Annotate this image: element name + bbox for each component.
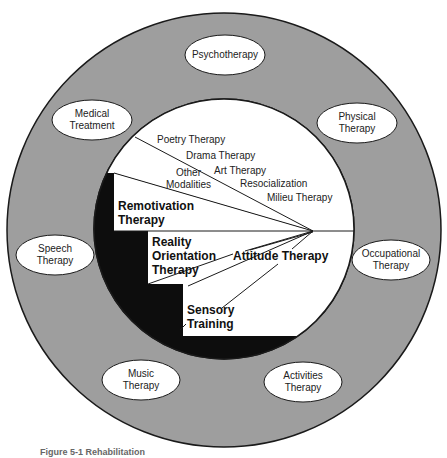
node-speech-therapy: Speech Therapy <box>16 235 94 275</box>
node-label: Speech Therapy <box>37 243 74 267</box>
node-occupational-therapy: Occupational Therapy <box>352 240 430 280</box>
node-label: Physical Therapy <box>338 111 375 135</box>
label-sensory-training: Sensory Training <box>187 303 234 331</box>
label-poetry-therapy: Poetry Therapy <box>157 134 225 146</box>
label-reality-orientation-therapy: Reality Orientation Therapy <box>152 235 216 277</box>
label-drama-therapy: Drama Therapy <box>186 150 255 162</box>
label-milieu-therapy: Milieu Therapy <box>267 192 332 204</box>
label-art-therapy: Art Therapy <box>214 165 266 177</box>
node-physical-therapy: Physical Therapy <box>317 103 397 143</box>
label-attitude-therapy: Attitude Therapy <box>233 249 328 263</box>
node-label: Psychotherapy <box>192 49 258 61</box>
label-other-modalities: Other Modalities <box>166 167 211 191</box>
node-label: Music Therapy <box>123 368 160 392</box>
label-remotivation-therapy: Remotivation Therapy <box>118 199 194 227</box>
node-label: Activities Therapy <box>283 370 322 394</box>
node-music-therapy: Music Therapy <box>102 360 180 400</box>
node-label: Occupational Therapy <box>362 248 420 272</box>
figure-caption: Figure 5-1 Rehabilitation <box>40 447 145 457</box>
node-psychotherapy: Psychotherapy <box>185 35 265 75</box>
node-activities-therapy: Activities Therapy <box>264 362 342 402</box>
node-medical-treatment: Medical Treatment <box>52 100 132 140</box>
label-resocialization: Resocialization <box>240 178 307 190</box>
node-label: Medical Treatment <box>69 108 114 132</box>
